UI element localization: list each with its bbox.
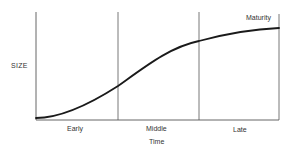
maturity-annotation: Maturity [246,14,271,21]
phase-label-late: Late [233,126,247,133]
phase-label-middle: Middle [146,125,167,132]
x-axis-label: Time [149,138,164,145]
y-axis-label: SIZE [11,62,28,69]
phase-label-early: Early [67,125,83,132]
growth-curve [36,28,279,118]
